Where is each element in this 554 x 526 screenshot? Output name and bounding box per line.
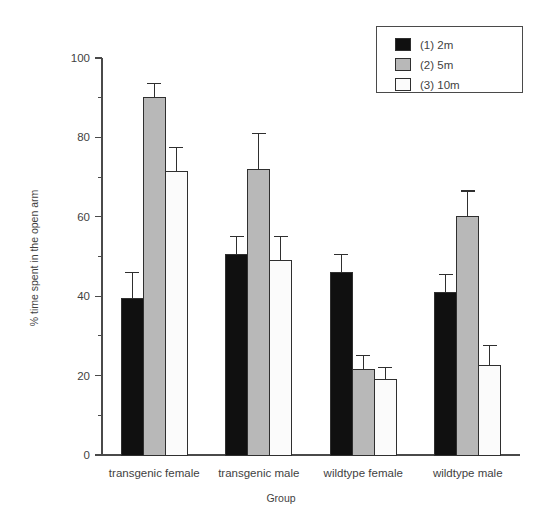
bars-layer bbox=[121, 98, 501, 455]
bar bbox=[165, 171, 187, 455]
category-labels: transgenic femaletransgenic malewildtype… bbox=[109, 467, 503, 479]
bar bbox=[121, 298, 143, 455]
legend-swatch bbox=[395, 79, 410, 91]
y-tick-label: 80 bbox=[77, 131, 90, 143]
bar bbox=[143, 98, 165, 455]
y-tick-label: 40 bbox=[77, 290, 90, 302]
legend-swatch bbox=[395, 59, 410, 71]
bar bbox=[270, 260, 292, 455]
y-tick-label: 0 bbox=[84, 449, 90, 461]
x-category-label: wildtype female bbox=[323, 467, 403, 479]
bar bbox=[457, 217, 479, 455]
bar bbox=[374, 380, 396, 455]
legend-label: (2) 5m bbox=[420, 59, 453, 71]
legend-swatch bbox=[395, 39, 410, 51]
bar-chart-figure: 020406080100 transgenic femaletransgenic… bbox=[0, 0, 554, 526]
y-axis: 020406080100 bbox=[71, 52, 102, 461]
bar bbox=[248, 169, 270, 455]
legend-label: (3) 10m bbox=[420, 79, 460, 91]
chart-svg: 020406080100 transgenic femaletransgenic… bbox=[0, 0, 554, 526]
bar bbox=[330, 272, 352, 455]
x-axis-title: Group bbox=[266, 492, 295, 504]
legend-label: (1) 2m bbox=[420, 39, 453, 51]
y-tick-label: 100 bbox=[71, 52, 90, 64]
x-category-label: wildtype male bbox=[432, 467, 503, 479]
y-tick-label: 20 bbox=[77, 370, 90, 382]
bar bbox=[352, 370, 374, 455]
bar bbox=[479, 366, 501, 455]
chart-legend: (1) 2m(2) 5m(3) 10m bbox=[376, 26, 522, 92]
bar bbox=[226, 255, 248, 455]
y-tick-label: 60 bbox=[77, 211, 90, 223]
y-axis-title: % time spent in the open arm bbox=[28, 189, 40, 326]
bar bbox=[435, 292, 457, 455]
x-category-label: transgenic male bbox=[218, 467, 299, 479]
x-category-label: transgenic female bbox=[109, 467, 200, 479]
